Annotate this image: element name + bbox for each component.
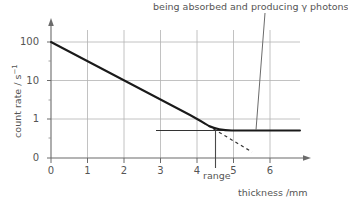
y-axis-title: count rate / s−1: [11, 46, 23, 156]
vertical-gridlines: [88, 30, 271, 158]
measured-count-rate-curve: [51, 42, 300, 131]
y-tick-label-0: 0: [9, 152, 39, 163]
x-tick-label-5: 5: [226, 165, 242, 176]
x-tick-label-3: 3: [153, 165, 169, 176]
x-tick-label-4: 4: [189, 165, 205, 176]
gamma-photon-annotation: being absorbed and producing γ photons: [153, 1, 348, 12]
x-tick-label-1: 1: [80, 165, 96, 176]
annotation-leader-line: [256, 13, 265, 130]
x-tick-label-2: 2: [116, 165, 132, 176]
y-tick-label-100: 100: [9, 36, 39, 47]
y-axis-arrowhead: [48, 18, 54, 26]
y-axis: [47, 18, 54, 158]
x-axis-arrowhead: [303, 155, 311, 161]
y-tick-label-1: 1: [9, 113, 39, 124]
x-axis: [51, 155, 311, 163]
y-axis-title-exponent: −1: [11, 64, 19, 74]
x-axis-title: thickness /mm: [238, 187, 308, 198]
y-tick-label-10: 10: [9, 75, 39, 86]
x-tick-label-6: 6: [262, 165, 278, 176]
x-tick-label-0: 0: [43, 165, 59, 176]
